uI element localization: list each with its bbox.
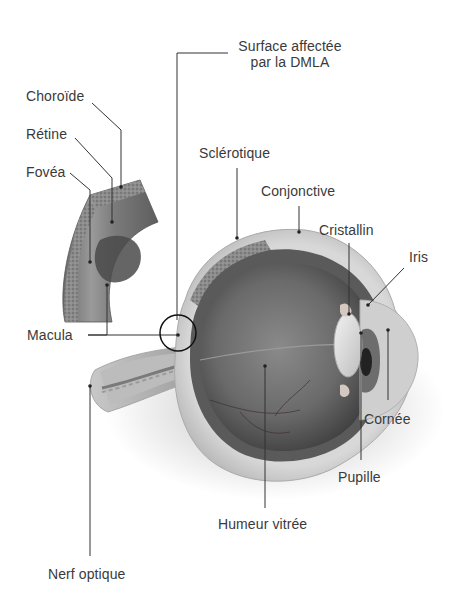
label-cristallin: Cristallin	[319, 222, 374, 238]
label-macula: Macula	[27, 327, 73, 343]
label-pupille: Pupille	[338, 469, 381, 485]
label-conjonctive: Conjonctive	[261, 183, 335, 199]
leader-choroide	[92, 103, 121, 187]
label-choroide: Choroïde	[26, 88, 84, 104]
retina-wedge-inset	[63, 180, 158, 322]
label-nerf-optique: Nerf optique	[48, 566, 125, 582]
label-humeur-vitree: Humeur vitrée	[218, 516, 307, 532]
label-surface-line1: Surface affectée	[220, 38, 360, 54]
label-surface-affectee: Surface affectée par la DMLA	[220, 38, 360, 70]
label-cornee: Cornée	[364, 411, 411, 427]
label-fovea: Fovéa	[26, 164, 65, 180]
label-surface-line2: par la DMLA	[220, 54, 360, 70]
label-iris: Iris	[409, 249, 428, 265]
label-sclerotique: Sclérotique	[199, 145, 270, 161]
eye-anatomy-diagram: Surface affectée par la DMLA Choroïde Ré…	[0, 0, 455, 614]
label-retine: Rétine	[26, 126, 67, 142]
